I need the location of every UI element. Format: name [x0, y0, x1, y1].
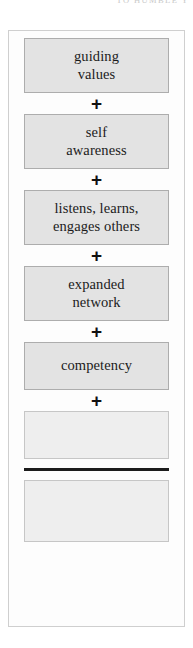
term-label: guiding values — [74, 48, 119, 82]
term-label-line-1: self — [66, 124, 126, 141]
term-label-line-2: awareness — [66, 142, 126, 159]
term-label: self awareness — [66, 124, 126, 158]
equation-stack: guiding values + self awareness + listen… — [9, 31, 184, 626]
term-box-expanded-network: expanded network — [24, 266, 169, 321]
term-label-line-1: guiding — [74, 48, 119, 65]
plus-operator-2: + — [24, 169, 169, 190]
term-label-line-1: expanded — [68, 276, 124, 293]
term-label-line-2: engages others — [53, 218, 140, 235]
term-label: expanded network — [68, 276, 124, 310]
figure-frame: guiding values + self awareness + listen… — [8, 30, 185, 627]
plus-operator-3: + — [24, 245, 169, 266]
term-label: competency — [61, 357, 132, 374]
term-box-blank — [24, 411, 169, 459]
term-box-guiding-values: guiding values — [24, 38, 169, 93]
plus-operator-5: + — [24, 390, 169, 411]
term-box-competency: competency — [24, 342, 169, 390]
plus-operator-1: + — [24, 93, 169, 114]
running-head: TO HUMBLE Y — [116, 0, 189, 4]
term-label-line-2: values — [74, 66, 119, 83]
term-label-line-1: competency — [61, 357, 132, 374]
plus-operator-4: + — [24, 321, 169, 342]
term-label: listens, learns, engages others — [53, 200, 140, 234]
sum-rule-divider — [24, 468, 169, 471]
term-box-listens-learns-engages-others: listens, learns, engages others — [24, 190, 169, 245]
term-label-line-1: listens, learns, — [53, 200, 140, 217]
term-label-line-2: network — [68, 294, 124, 311]
result-box-blank — [24, 480, 169, 542]
term-box-self-awareness: self awareness — [24, 114, 169, 169]
